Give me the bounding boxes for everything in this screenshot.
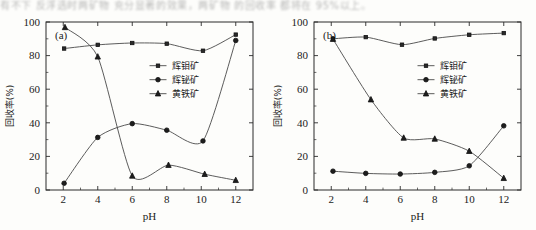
series-1 — [62, 33, 237, 53]
panel-label: (a) — [55, 29, 68, 42]
y-tick-label: 0 — [303, 184, 309, 196]
y-tick-label: 60 — [29, 83, 41, 95]
data-point-marker — [164, 128, 169, 133]
legend-marker-glyph — [156, 77, 161, 82]
y-tick-label: 60 — [297, 83, 309, 95]
y-tick-label: 80 — [29, 49, 41, 61]
x-tick-label: 6 — [398, 193, 404, 205]
y-tick-label: 20 — [297, 150, 309, 162]
data-point-marker — [201, 139, 206, 144]
data-point-marker — [331, 169, 336, 174]
y-tick-label: 0 — [35, 184, 41, 196]
data-point-marker — [501, 124, 506, 129]
data-point-marker — [401, 135, 406, 140]
y-tick-label: 40 — [29, 117, 41, 129]
legend-marker-glyph — [424, 64, 427, 67]
plot-frame — [314, 22, 521, 190]
data-point-marker — [131, 41, 134, 44]
chart-b-canvas: 24681012020406080100pH回收率(%)(b)辉钼矿辉铋矿黄铁矿 — [268, 12, 536, 230]
x-tick-label: 2 — [329, 193, 335, 205]
data-point-marker — [363, 171, 368, 176]
figure-page: 有不下 反浮选时两矿物 充分显著的效果，两矿物 的回收率 都将在 95%以上。 … — [0, 0, 536, 230]
series-2 — [331, 124, 506, 177]
legend-marker-glyph — [156, 64, 159, 67]
data-point-marker — [95, 54, 100, 59]
data-point-marker — [95, 135, 100, 140]
data-point-marker — [433, 37, 436, 40]
y-tick-label: 80 — [297, 49, 309, 61]
x-axis-title: pH — [143, 210, 157, 222]
x-tick-label: 8 — [164, 193, 170, 205]
legend-label: 黄铁矿 — [172, 88, 199, 99]
x-tick-label: 2 — [61, 193, 67, 205]
data-point-marker — [432, 170, 437, 175]
legend-label: 辉铋矿 — [172, 74, 199, 85]
figure-panels: 24681012020406080100pH回收率(%)(a)辉钼矿辉铋矿黄铁矿… — [0, 12, 536, 230]
x-tick-label: 10 — [196, 193, 208, 205]
series-curve — [333, 39, 504, 178]
chart-panel-b: 24681012020406080100pH回收率(%)(b)辉钼矿辉铋矿黄铁矿 — [268, 12, 536, 230]
legend-label: 辉铋矿 — [440, 74, 467, 85]
cropped-body-text-fragment: 有不下 反浮选时两矿物 充分显著的效果，两矿物 的回收率 都将在 95%以上。 — [0, 0, 536, 12]
data-point-marker — [165, 42, 168, 45]
data-point-marker — [398, 172, 403, 177]
series-1 — [331, 31, 505, 46]
series-curve — [64, 40, 236, 183]
chart-panel-a: 24681012020406080100pH回收率(%)(a)辉钼矿辉铋矿黄铁矿 — [0, 12, 268, 230]
series-3 — [330, 36, 506, 181]
series-curve — [64, 35, 236, 51]
data-point-marker — [501, 175, 506, 180]
series-2 — [62, 38, 238, 185]
legend-marker — [424, 77, 429, 82]
x-tick-label: 12 — [230, 193, 241, 205]
data-point-marker — [62, 47, 65, 50]
data-point-marker — [468, 33, 471, 36]
y-tick-label: 100 — [24, 16, 41, 28]
legend-marker — [156, 64, 159, 67]
data-point-marker — [467, 148, 472, 153]
y-tick-label: 40 — [297, 117, 309, 129]
data-point-marker — [130, 173, 135, 178]
data-point-marker — [364, 35, 367, 38]
legend-marker — [156, 77, 161, 82]
data-point-marker — [62, 181, 67, 186]
y-tick-label: 100 — [292, 16, 309, 28]
x-axis-title: pH — [411, 210, 425, 222]
legend-marker — [424, 64, 427, 67]
series-curve — [333, 33, 504, 45]
data-point-marker — [467, 164, 472, 169]
data-point-marker — [502, 31, 505, 34]
data-point-marker — [166, 162, 171, 167]
data-point-marker — [201, 49, 204, 52]
x-tick-label: 4 — [363, 193, 369, 205]
series-curve — [333, 126, 504, 174]
data-point-marker — [234, 33, 237, 36]
legend-label: 辉钼矿 — [172, 60, 199, 71]
x-tick-label: 4 — [95, 193, 101, 205]
y-axis-title: 回收率(%) — [272, 85, 283, 128]
legend-label: 辉钼矿 — [440, 60, 467, 71]
data-point-marker — [400, 43, 403, 46]
y-tick-label: 20 — [29, 150, 41, 162]
x-tick-label: 6 — [130, 193, 136, 205]
series-curve — [65, 27, 236, 180]
x-tick-label: 8 — [432, 193, 438, 205]
data-point-marker — [130, 121, 135, 126]
data-point-marker — [96, 43, 99, 46]
legend-label: 黄铁矿 — [440, 88, 467, 99]
series-3 — [62, 24, 238, 182]
x-tick-label: 12 — [498, 193, 509, 205]
y-axis-title: 回收率(%) — [4, 85, 15, 128]
x-tick-label: 10 — [464, 193, 476, 205]
legend-marker-glyph — [424, 77, 429, 82]
data-point-marker — [233, 38, 238, 43]
chart-a-canvas: 24681012020406080100pH回收率(%)(a)辉钼矿辉铋矿黄铁矿 — [0, 12, 268, 230]
